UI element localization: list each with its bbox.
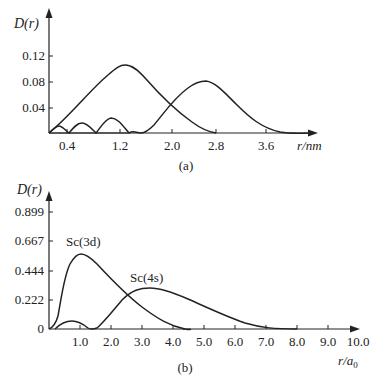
b-xlabel: r/a0 (338, 353, 358, 370)
figure: 0.12 0.08 0.04 0.4 1.2 2.0 2.8 3.6 D(r) … (0, 0, 387, 379)
b-xtick: 8.0 (289, 334, 305, 349)
b-xtick: 7.0 (258, 334, 274, 349)
b-xtick: 2.0 (103, 334, 119, 349)
b-curve-sc4s (55, 288, 297, 329)
a-xtick: 2.8 (208, 138, 224, 153)
a-xtick: 3.6 (258, 138, 275, 153)
b-xtick: 6.0 (227, 334, 243, 349)
a-xtick: 2.0 (164, 138, 180, 153)
a-caption: (a) (179, 158, 193, 173)
b-xtick: 10.0 (347, 334, 370, 349)
b-ytick: 0 (38, 321, 45, 336)
b-xtick: 4.0 (165, 334, 181, 349)
b-caption: (b) (177, 360, 192, 375)
b-ytick: 0.667 (15, 233, 45, 248)
b-xtick: 5.0 (196, 334, 212, 349)
b-ylabel: D(r) (16, 182, 42, 198)
b-xtick: 9.0 (320, 334, 336, 349)
a-y-arrow-icon (46, 8, 53, 18)
b-ytick: 0.444 (15, 263, 45, 278)
a-xtick: 1.2 (112, 138, 128, 153)
b-series-label-3d: Sc(3d) (66, 234, 101, 249)
b-xtick: 1.0 (72, 334, 88, 349)
b-xtick: 3.0 (134, 334, 150, 349)
b-y-arrow-icon (46, 191, 53, 201)
a-curve-2 (49, 81, 312, 133)
a-ytick: 0.12 (22, 48, 45, 63)
panel-a: 0.12 0.08 0.04 0.4 1.2 2.0 2.8 3.6 D(r) … (13, 8, 322, 173)
a-ytick: 0.08 (22, 74, 45, 89)
b-ytick: 0.222 (15, 292, 44, 307)
a-ytick: 0.04 (22, 100, 45, 115)
a-xtick: 0.4 (59, 138, 76, 153)
a-curve-1 (49, 65, 216, 133)
panel-b: 0.899 0.667 0.444 0.222 0 1.0 2.0 3.0 4.… (15, 182, 370, 375)
a-ylabel: D(r) (13, 16, 39, 32)
b-series-label-4s: Sc(4s) (130, 270, 163, 285)
a-xlabel: r/nm (297, 138, 322, 153)
b-ytick: 0.899 (15, 204, 44, 219)
b-x-arrow-icon (350, 326, 360, 333)
